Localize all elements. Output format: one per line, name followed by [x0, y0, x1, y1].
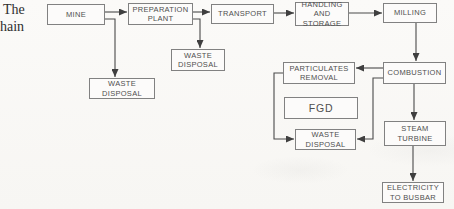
node-waste-disposal-mine: WASTE DISPOSAL — [89, 78, 155, 99]
node-transport-label: TRANSPORT — [218, 9, 267, 18]
node-preparation-plant: PREPARATION PLANT — [128, 3, 193, 25]
node-electricity-to-busbar-label: ELECTRICITY TO BUSBAR — [387, 183, 439, 201]
flowchart-connectors — [0, 0, 454, 209]
node-particulates-removal-label: PARTICULATES REMOVAL — [289, 64, 348, 82]
node-combustion: COMBUSTION — [383, 62, 446, 84]
node-transport: TRANSPORT — [211, 4, 274, 24]
node-waste-disposal-combustion: WASTE DISPOSAL — [295, 129, 356, 150]
edge-combustion-waste-disposal — [357, 78, 383, 139]
node-steam-turbine-label: STEAM TURBINE — [397, 124, 432, 142]
node-fgd-label: FGD — [309, 102, 334, 115]
node-combustion-label: COMBUSTION — [388, 68, 442, 77]
node-milling-label: MILLING — [394, 8, 426, 17]
node-milling: MILLING — [383, 3, 437, 23]
node-steam-turbine: STEAM TURBINE — [384, 121, 446, 146]
node-mine: MINE — [47, 4, 105, 25]
edge-preparation-plant-waste-disposal — [193, 19, 200, 48]
node-preparation-plant-label: PREPARATION PLANT — [133, 5, 189, 23]
node-waste-disposal-preparation: WASTE DISPOSAL — [171, 49, 225, 71]
coal-fuel-chain-figure: The hain MINE PREPARATION PLANT TRANSPOR… — [0, 0, 454, 209]
node-waste-disposal-combustion-label: WASTE DISPOSAL — [306, 130, 346, 148]
node-fgd: FGD — [284, 97, 358, 119]
node-handling-and-storage-label: HANDLING AND STORAGE — [301, 0, 342, 27]
node-waste-disposal-preparation-label: WASTE DISPOSAL — [178, 51, 218, 69]
node-electricity-to-busbar: ELECTRICITY TO BUSBAR — [382, 182, 444, 203]
edge-mine-waste-disposal — [105, 19, 115, 77]
node-handling-and-storage: HANDLING AND STORAGE — [295, 2, 349, 26]
node-mine-label: MINE — [66, 10, 86, 19]
node-waste-disposal-mine-label: WASTE DISPOSAL — [102, 79, 142, 97]
node-particulates-removal: PARTICULATES REMOVAL — [283, 62, 355, 84]
